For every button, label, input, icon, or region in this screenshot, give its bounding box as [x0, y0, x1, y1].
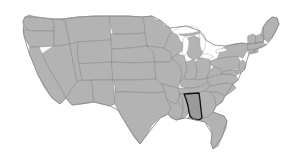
- state-kansas[interactable]: [112, 62, 156, 80]
- us-map-svg: [0, 0, 301, 163]
- state-wyoming[interactable]: [77, 40, 112, 64]
- lake-erie: [202, 54, 214, 59]
- state-vermont[interactable]: [248, 34, 256, 44]
- region-south: [176, 67, 238, 149]
- region-west: [23, 15, 115, 106]
- state-north-dakota[interactable]: [110, 16, 145, 34]
- state-texas[interactable]: [115, 92, 171, 144]
- state-montana[interactable]: [62, 16, 111, 44]
- state-nebraska[interactable]: [112, 46, 155, 63]
- state-oklahoma[interactable]: [113, 79, 165, 93]
- state-colorado[interactable]: [79, 62, 113, 80]
- region-northeast: [210, 17, 279, 76]
- us-locator-map-figure: [0, 0, 301, 163]
